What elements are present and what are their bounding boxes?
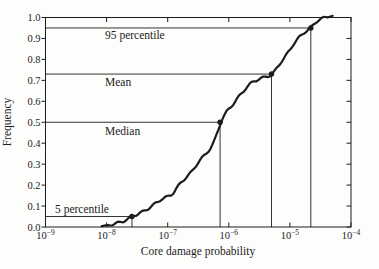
x-tick-label: 10−5: [268, 230, 312, 242]
cdf-curve: [102, 16, 333, 226]
y-tick-label: 0.8: [15, 54, 41, 65]
annotation-label: Mean: [105, 76, 131, 89]
y-tick-label: 0.5: [15, 117, 41, 128]
y-tick-label: 0.7: [15, 75, 41, 86]
y-axis-title: Frequency: [1, 84, 13, 160]
y-tick-label: 0.9: [15, 33, 41, 44]
y-tick-label: 0.3: [15, 159, 41, 170]
annotation-label: Median: [105, 125, 140, 138]
annotation-label: 95 percentile: [105, 29, 165, 42]
y-tick-label: 0.1: [15, 201, 41, 212]
x-tick-label: 10−7: [146, 230, 190, 242]
x-axis-title: Core damage probability: [108, 245, 288, 257]
annotation-label: 5 percentile: [55, 203, 109, 216]
x-tick-label: 10−6: [207, 230, 251, 242]
plot-canvas: [0, 0, 379, 269]
x-tick-label: 10−4: [329, 230, 373, 242]
y-tick-label: 0.2: [15, 180, 41, 191]
x-tick-label: 10−9: [24, 230, 68, 242]
cdf-chart: Frequency Core damage probability 0.00.1…: [0, 0, 379, 269]
x-tick-label: 10−8: [85, 230, 129, 242]
y-tick-label: 0.6: [15, 96, 41, 107]
y-tick-label: 1.0: [15, 12, 41, 23]
y-tick-label: 0.4: [15, 138, 41, 149]
